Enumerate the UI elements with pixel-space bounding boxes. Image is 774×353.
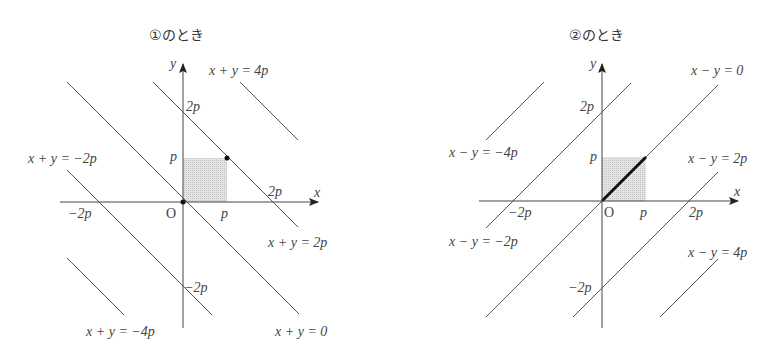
diagram-2 (479, 64, 738, 328)
tick-x-neg2p: −2p (508, 206, 531, 220)
tick-x-p: p (221, 207, 228, 221)
tick-y-p: p (170, 150, 177, 164)
label-x-plus-y-0: x + y = 0 (275, 325, 327, 339)
label-x-plus-y-neg4p: x + y = −4p (86, 325, 155, 339)
tick-x-p: p (640, 206, 647, 220)
diagram-1-title: ①のとき (149, 24, 204, 44)
tick-y-neg2p: −2p (184, 281, 207, 295)
tick-x-2p: 2p (268, 185, 282, 199)
label-x-minus-y-neg4p: x − y = −4p (449, 146, 518, 160)
label-x-plus-y-neg2p: x + y = −2p (28, 152, 97, 166)
label-x-minus-y-neg2p: x − y = −2p (449, 235, 518, 249)
origin-label: O (166, 207, 176, 221)
line-x-minus-y-4p (660, 259, 718, 317)
corner-point-p-p (225, 156, 230, 161)
origin-point (181, 200, 186, 205)
label-x-plus-y-2p: x + y = 2p (268, 236, 327, 250)
tick-x-2p: 2p (689, 206, 703, 220)
label-x-plus-y-4p: x + y = 4p (209, 64, 268, 78)
shaded-square (183, 158, 227, 202)
y-axis-label: y (170, 57, 176, 71)
y-axis-label: y (590, 57, 596, 71)
x-axis-label: x (314, 186, 320, 200)
tick-y-2p: 2p (580, 100, 594, 114)
label-x-minus-y-4p: x − y = 4p (688, 246, 747, 260)
tick-y-p: p (590, 150, 597, 164)
origin-label: O (604, 206, 614, 220)
diagram-2-title: ②のとき (569, 24, 624, 44)
tick-y-neg2p: −2p (568, 281, 591, 295)
label-x-minus-y-2p: x − y = 2p (688, 152, 747, 166)
figure-canvas (0, 0, 774, 353)
line-x-minus-y-neg4p (486, 82, 544, 140)
tick-x-neg2p: −2p (68, 207, 91, 221)
label-x-minus-y-0: x − y = 0 (691, 64, 743, 78)
x-axis-label: x (734, 185, 740, 199)
line-x-plus-y-neg4p (67, 258, 124, 315)
line-x-plus-y-4p (240, 82, 298, 140)
tick-y-2p: 2p (186, 100, 200, 114)
